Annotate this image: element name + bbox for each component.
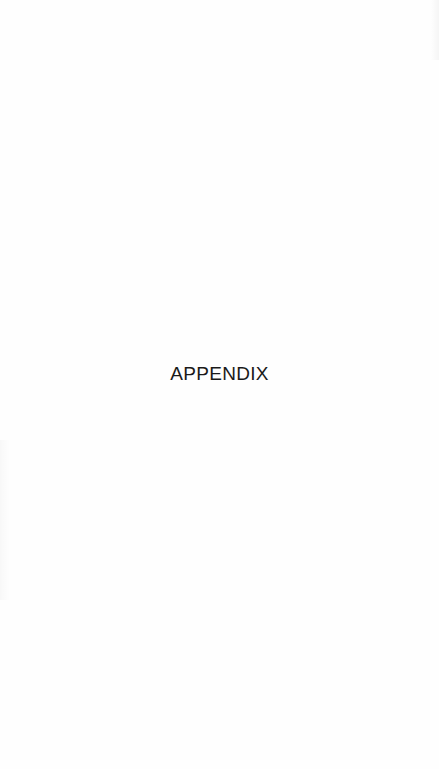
appendix-heading: APPENDIX	[0, 362, 439, 386]
paper-edge-shadow	[431, 0, 439, 60]
document-page: APPENDIX	[0, 0, 439, 769]
paper-edge-shadow	[0, 440, 10, 600]
